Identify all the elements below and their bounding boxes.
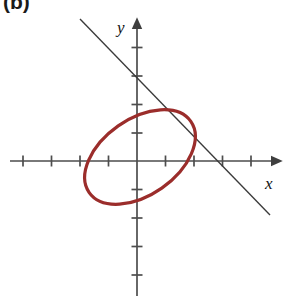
y-axis-group [132,28,143,296]
ellipse-curve [67,90,212,223]
figure-container: (b) [0,0,290,299]
y-axis-label: y [115,18,125,37]
x-axis-label: x [264,174,273,193]
coordinate-plot: y x [0,0,290,299]
line-plot [80,19,270,215]
x-axis-group [10,156,272,167]
